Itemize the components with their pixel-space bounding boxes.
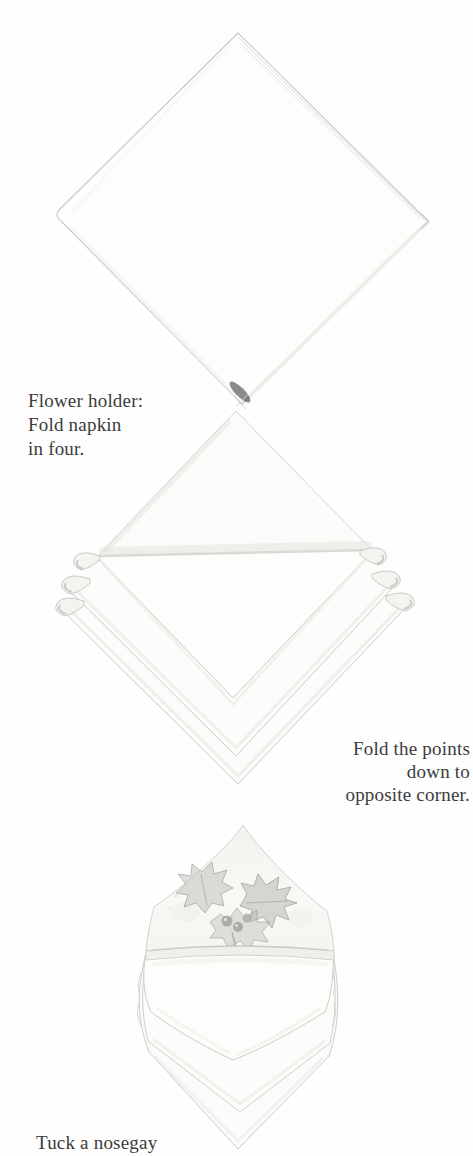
illustration-napkin-folded-in-four [57,33,430,409]
caption-step2-line1: Fold the points [345,737,470,760]
caption-step3-line1: Tuck a nosegay [36,1131,157,1155]
caption-step2-line2: down to [345,760,470,783]
illustration-flower-holder-with-nosegay [137,825,337,1149]
caption-step1: Flower holder: Fold napkin in four. [28,389,143,461]
napkin-diamond-outline [57,33,428,404]
holly-berry [233,922,243,932]
berry-highlight [224,918,227,921]
caption-step3: Tuck a nosegay [36,1131,157,1155]
book-page: Flower holder: Fold napkin in four. Fold… [0,0,473,1156]
speckle [169,907,172,910]
caption-step2-line3: opposite corner. [345,783,470,806]
speckle [174,894,178,898]
caption-step2: Fold the points down to opposite corner. [345,737,470,806]
berry-highlight [235,924,238,927]
holly-berry [243,914,252,923]
caption-step1-line2: Fold napkin [28,413,143,437]
envelope-mottle [287,909,313,927]
napkin-folding-illustrations [0,0,473,1156]
illustration-napkin-points-folded-down [56,411,415,784]
holly-berry [222,916,233,927]
caption-step1-line1: Flower holder: [28,389,143,413]
caption-step1-line3: in four. [28,437,143,461]
